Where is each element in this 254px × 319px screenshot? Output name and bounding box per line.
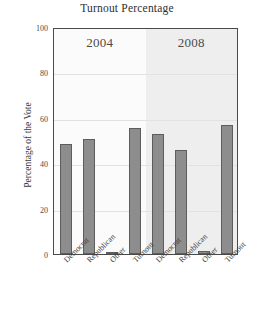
chart-title: Turnout Percentage bbox=[0, 2, 254, 14]
y-axis-tick-label: 0 bbox=[22, 251, 48, 260]
plot-area: 2004 2008 bbox=[53, 28, 238, 255]
y-axis-title: Percentage of the Vote bbox=[23, 65, 33, 225]
y-axis-tick-label: 100 bbox=[22, 24, 48, 33]
gridline bbox=[54, 74, 237, 75]
chart-figure: Turnout Percentage Percentage of the Vot… bbox=[0, 0, 254, 319]
bar bbox=[152, 134, 164, 254]
bar bbox=[60, 144, 72, 254]
bar bbox=[175, 150, 187, 254]
panel-label-2008: 2008 bbox=[146, 35, 238, 51]
bar bbox=[221, 125, 233, 254]
bar bbox=[129, 128, 141, 254]
gridline bbox=[54, 120, 237, 121]
bar bbox=[83, 139, 95, 254]
gridline bbox=[54, 211, 237, 212]
panel-label-2004: 2004 bbox=[54, 35, 146, 51]
bar bbox=[106, 252, 118, 254]
bar bbox=[198, 251, 210, 254]
gridline bbox=[54, 165, 237, 166]
